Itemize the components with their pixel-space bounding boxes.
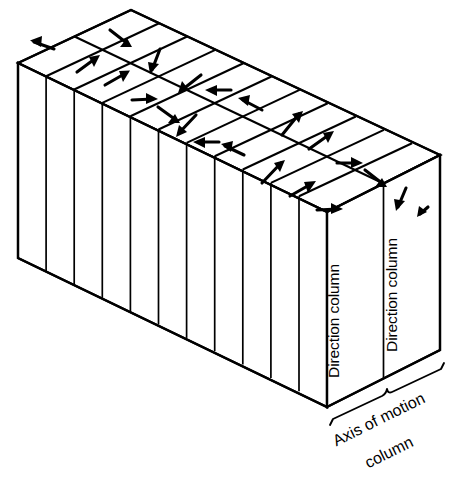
label-direction-column-near-wrap: Direction column xyxy=(324,236,344,406)
label-direction-column-near: Direction column xyxy=(325,264,343,378)
arrow-cell-near-1 xyxy=(30,36,54,49)
figure-root: Direction column Direction column Axis o… xyxy=(0,0,461,490)
label-direction-column-far: Direction column xyxy=(383,238,401,352)
label-direction-column-far-wrap: Direction column xyxy=(382,210,402,380)
